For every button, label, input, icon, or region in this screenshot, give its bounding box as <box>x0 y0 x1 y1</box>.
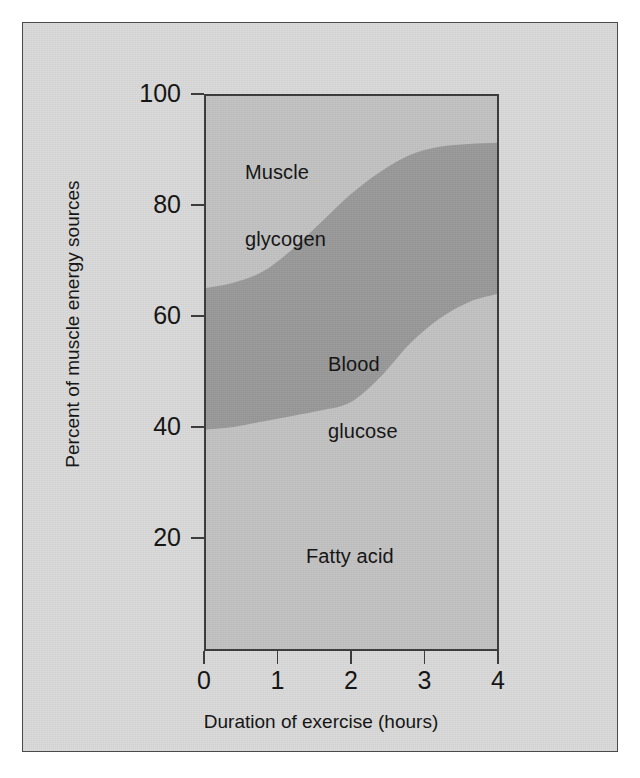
x-axis-title: Duration of exercise (hours) <box>23 711 619 733</box>
y-tick-label: 40 <box>81 414 181 439</box>
y-tick-mark <box>191 315 204 317</box>
plot-border-top <box>204 94 499 96</box>
x-tick-mark <box>350 651 352 664</box>
x-tick-mark <box>203 651 205 664</box>
x-tick-mark <box>497 651 499 664</box>
region-label-blood-glucose: Blood glucose <box>328 308 398 487</box>
y-tick-label: 100 <box>81 81 181 106</box>
x-tick-label: 1 <box>258 668 298 693</box>
x-tick-label: 4 <box>478 668 518 693</box>
region-label-fatty-acid: Fatty acid <box>306 500 394 612</box>
y-tick-label: 60 <box>81 303 181 328</box>
plot-axis-line-left <box>204 94 206 650</box>
x-tick-label: 3 <box>405 668 445 693</box>
plot-border-right <box>497 94 499 650</box>
region-label-muscle-glycogen: Muscle glycogen <box>245 116 326 295</box>
x-tick-mark <box>424 651 426 664</box>
figure-frame: Muscle glycogen Blood glucose Fatty acid… <box>22 22 618 752</box>
y-tick-label: 20 <box>81 525 181 550</box>
region-label-line-1: Muscle <box>245 161 326 183</box>
y-tick-label: 80 <box>81 192 181 217</box>
y-tick-mark <box>191 426 204 428</box>
y-tick-mark <box>191 93 204 95</box>
y-tick-mark <box>191 537 204 539</box>
x-tick-label: 0 <box>184 668 224 693</box>
region-label-line-1: Blood <box>328 353 398 375</box>
x-tick-mark <box>277 651 279 664</box>
y-axis-title: Percent of muscle energy sources <box>62 114 84 534</box>
region-label-line-1: Fatty acid <box>306 545 394 567</box>
region-label-line-2: glucose <box>328 420 398 442</box>
y-tick-mark <box>191 204 204 206</box>
x-tick-label: 2 <box>331 668 371 693</box>
region-label-line-2: glycogen <box>245 228 326 250</box>
